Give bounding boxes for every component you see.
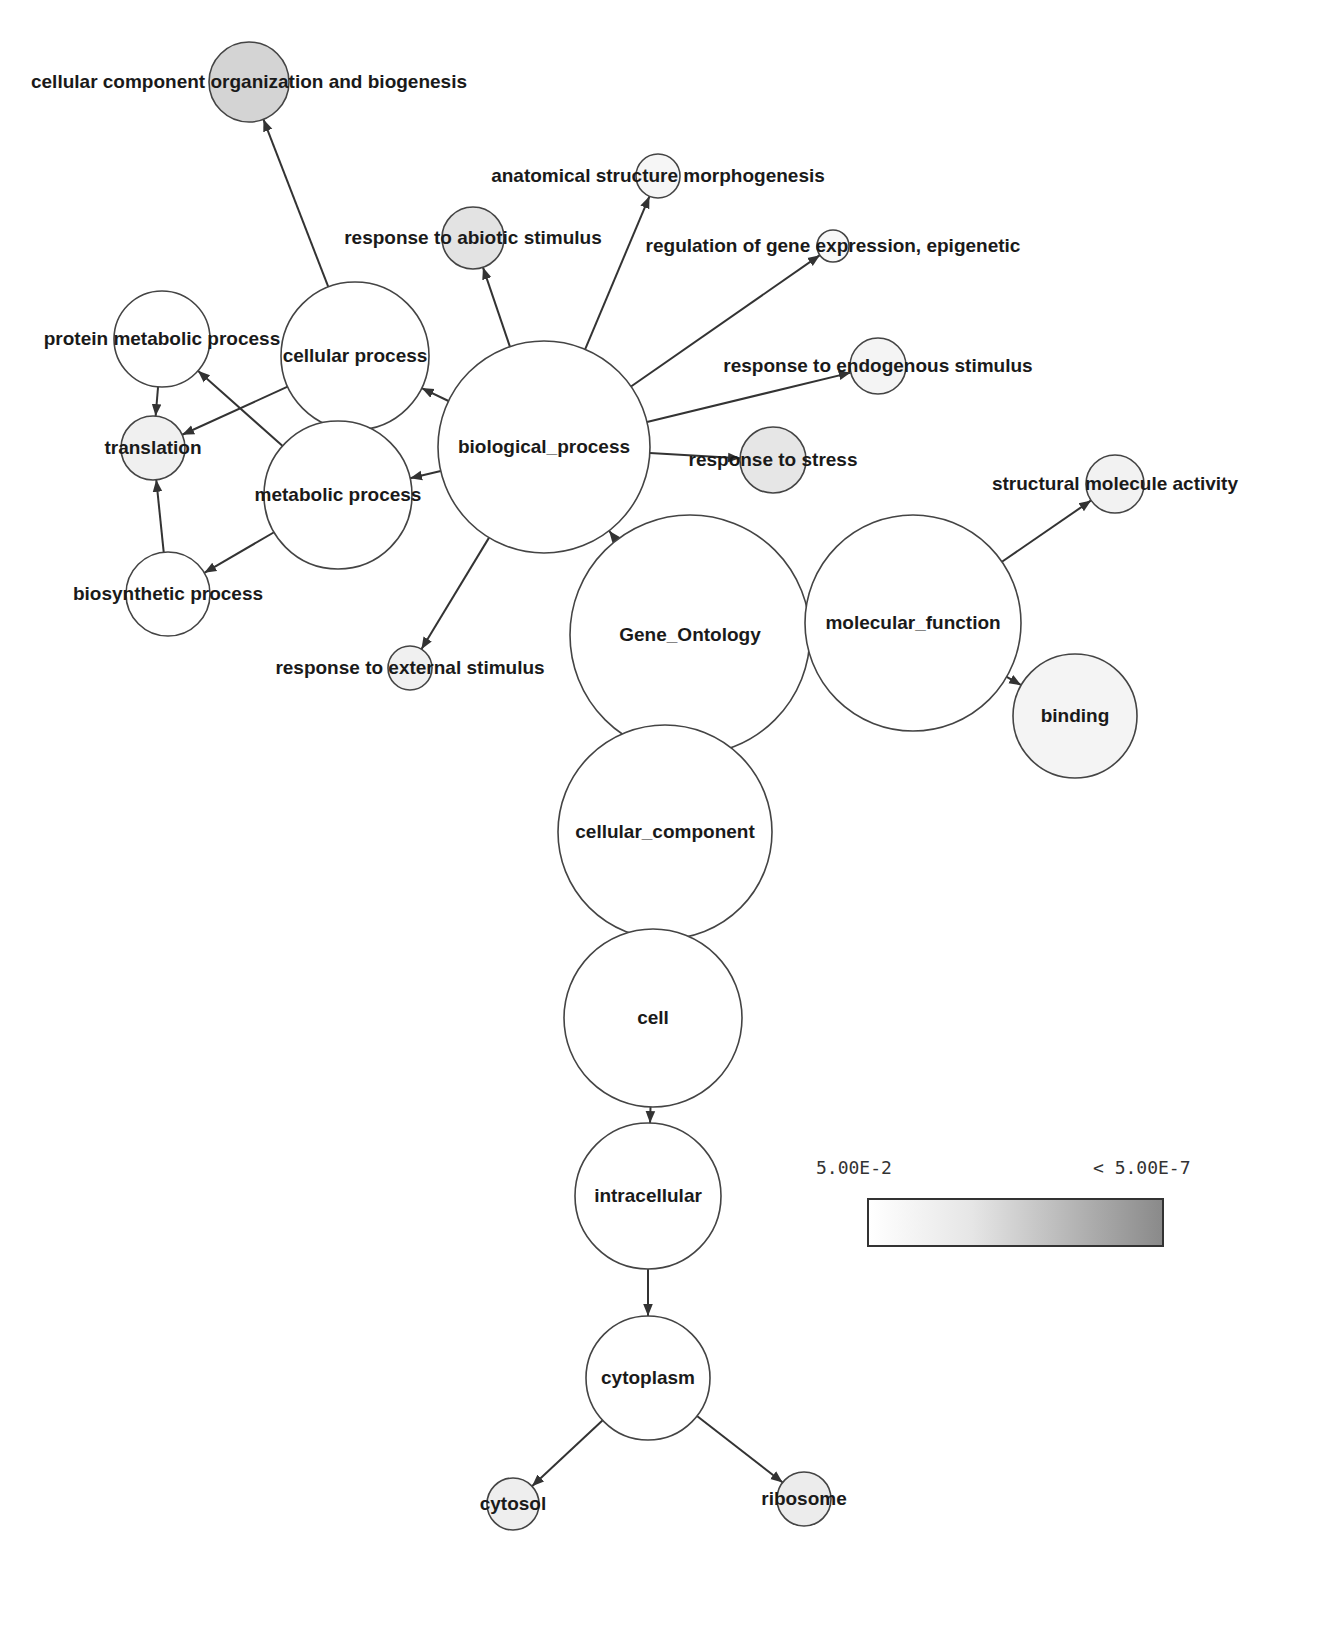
- edge-biological_process-to-anatomical_structure_morphogenesis: [585, 196, 649, 349]
- node-label-cytosol: cytosol: [480, 1493, 547, 1514]
- edge-molecular_function-to-structural_molecule_activity: [1002, 500, 1091, 561]
- edge-biological_process-to-cellular_process: [422, 388, 449, 401]
- node-label-molecular-function: molecular_function: [825, 612, 1000, 633]
- node-label-binding: binding: [1041, 705, 1110, 726]
- legend-min-label: 5.00E-2: [816, 1157, 892, 1178]
- node-label-metabolic-process: metabolic process: [255, 484, 422, 505]
- edge-gene_ontology-to-biological_process: [609, 531, 616, 541]
- node-label-translation: translation: [104, 437, 201, 458]
- edge-molecular_function-to-binding: [1007, 677, 1022, 685]
- node-label-regulation-of-gene-expression: regulation of gene expression, epigeneti…: [646, 235, 1021, 256]
- node-label-gene-ontology: Gene_Ontology: [619, 624, 761, 645]
- legend-gradient-bar: [867, 1198, 1164, 1247]
- edge-cytoplasm-to-cytosol: [532, 1420, 603, 1486]
- go-graph: Gene_Ontologybiological_processmolecular…: [0, 0, 1337, 1642]
- node-label-cell: cell: [637, 1007, 669, 1028]
- node-label-biological-process: biological_process: [458, 436, 630, 457]
- node-label-anatomical-structure-morphogenesis: anatomical structure morphogenesis: [491, 165, 825, 186]
- node-label-cellular-component-organization: cellular component organization and biog…: [31, 71, 467, 92]
- node-label-structural-molecule-activity: structural molecule activity: [992, 473, 1238, 494]
- edge-metabolic_process-to-biosynthetic_process: [204, 532, 274, 573]
- node-label-response-to-abiotic-stimulus: response to abiotic stimulus: [344, 227, 602, 248]
- node-label-response-to-external-stimulus: response to external stimulus: [275, 657, 544, 678]
- edge-biological_process-to-response_to_external_stimulus: [421, 538, 489, 650]
- legend-max-label: < 5.00E-7: [1093, 1157, 1191, 1178]
- edge-protein_metabolic_process-to-translation: [156, 387, 158, 416]
- edge-cellular_process-to-cellular_component_organization: [263, 119, 328, 287]
- node-label-protein-metabolic-process: protein metabolic process: [44, 328, 281, 349]
- node-label-cytoplasm: cytoplasm: [601, 1367, 695, 1388]
- nodes-layer: [114, 42, 1144, 1530]
- edge-metabolic_process-to-protein_metabolic_process: [198, 371, 283, 446]
- edge-biological_process-to-metabolic_process: [410, 471, 441, 478]
- edge-biological_process-to-response_to_abiotic_stimulus: [483, 267, 510, 346]
- node-label-ribosome: ribosome: [761, 1488, 847, 1509]
- node-label-response-to-endogenous-stimulus: response to endogenous stimulus: [723, 355, 1032, 376]
- edge-biosynthetic_process-to-translation: [156, 480, 163, 552]
- edge-biological_process-to-response_to_endogenous_stimulus: [647, 373, 851, 422]
- node-label-cellular-component: cellular_component: [575, 821, 755, 842]
- edge-cytoplasm-to-ribosome: [697, 1416, 783, 1482]
- node-label-biosynthetic-process: biosynthetic process: [73, 583, 263, 604]
- node-label-cellular-process: cellular process: [283, 345, 428, 366]
- node-label-response-to-stress: response to stress: [689, 449, 858, 470]
- node-label-intracellular: intracellular: [594, 1185, 702, 1206]
- edge-cellular_process-to-translation: [182, 387, 288, 435]
